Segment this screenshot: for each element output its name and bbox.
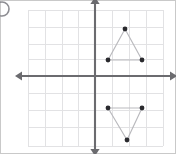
- plotted-points: [106, 27, 145, 143]
- vertex-point: [125, 138, 130, 143]
- plotted-shapes: [108, 29, 142, 140]
- axes: [15, 0, 176, 154]
- choice-label-icon: [0, 2, 9, 16]
- coordinate-plane-svg: [0, 0, 176, 154]
- coordinate-grid-figure: D): [0, 0, 176, 154]
- vertex-point: [123, 27, 128, 32]
- lower-triangle: [108, 108, 142, 140]
- x-axis-arrow-left: [15, 71, 22, 80]
- choice-label-circle: [0, 2, 9, 16]
- vertex-point: [106, 106, 111, 111]
- vertex-point: [140, 58, 145, 63]
- vertex-point: [140, 106, 145, 111]
- vertex-point: [106, 58, 111, 63]
